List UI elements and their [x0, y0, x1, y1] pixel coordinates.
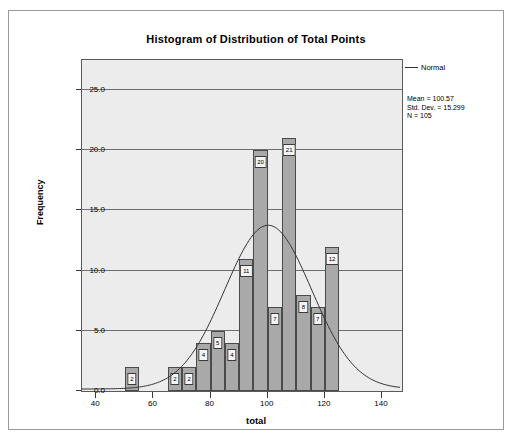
x-axis-tick-mark	[324, 392, 325, 398]
bar-value-label: 8	[299, 301, 308, 313]
y-axis-tick-mark	[76, 89, 81, 90]
bar-value-label: 2	[170, 373, 179, 385]
x-axis-tick-mark	[95, 392, 96, 398]
x-axis-label: total	[9, 415, 503, 426]
y-axis-tick-label: 25.0	[89, 85, 105, 94]
x-axis-tick-label: 80	[205, 399, 214, 408]
statistics-annotation: Mean = 100.57 Std. Dev. = 15.299 N = 105	[407, 95, 465, 121]
bar-value-label: 21	[283, 144, 296, 156]
x-axis-tick-label: 40	[91, 399, 100, 408]
gridline	[82, 149, 402, 150]
y-axis-tick-label: 5.0	[94, 325, 105, 334]
bars-container: 22245411207218712	[82, 60, 402, 391]
y-axis-tick-mark	[76, 330, 81, 331]
legend-line-swatch	[405, 67, 418, 68]
y-axis-tick-mark	[76, 149, 81, 150]
chart-frame: Histogram of Distribution of Total Point…	[8, 10, 504, 430]
histogram-bar	[282, 138, 296, 391]
stat-n: N = 105	[407, 112, 465, 121]
bar-value-label: 20	[254, 156, 267, 168]
bar-value-label: 11	[240, 265, 252, 277]
bar-value-label: 4	[199, 349, 208, 361]
x-axis-tick-label: 140	[374, 399, 387, 408]
stat-stddev: Std. Dev. = 15.299	[407, 104, 465, 113]
bar-value-label: 12	[326, 253, 339, 265]
y-axis-tick-label: 10.0	[89, 265, 105, 274]
bar-value-label: 4	[227, 349, 236, 361]
bar-value-label: 2	[127, 373, 136, 385]
y-axis-tick-mark	[76, 209, 81, 210]
y-axis-label: Frequency	[35, 179, 45, 225]
bar-value-label: 7	[270, 313, 279, 325]
x-axis-tick-label: 100	[260, 399, 273, 408]
x-axis-tick-mark	[381, 392, 382, 398]
x-axis-tick-mark	[152, 392, 153, 398]
stat-mean: Mean = 100.57	[407, 95, 465, 104]
plot-area: 22245411207218712	[81, 59, 403, 392]
x-axis-tick-mark	[210, 392, 211, 398]
gridline	[82, 89, 402, 90]
y-axis-tick-mark	[76, 270, 81, 271]
bar-value-label: 5	[213, 337, 222, 349]
y-axis-tick-mark	[76, 390, 81, 391]
page-title: Histogram of Distribution of Total Point…	[9, 33, 503, 45]
histogram-bar	[253, 150, 267, 391]
histogram-bar	[325, 247, 339, 391]
x-axis-tick-label: 120	[317, 399, 330, 408]
bar-value-label: 2	[184, 373, 193, 385]
bar-value-label: 7	[313, 313, 322, 325]
histogram-bar	[239, 259, 253, 391]
legend-label-normal: Normal	[421, 63, 445, 72]
x-axis-tick-label: 60	[148, 399, 157, 408]
y-axis-tick-label: 15.0	[89, 205, 105, 214]
legend: Normal	[405, 63, 445, 72]
y-axis-tick-label: 20.0	[89, 145, 105, 154]
x-axis-tick-mark	[267, 392, 268, 398]
gridline	[82, 209, 402, 210]
